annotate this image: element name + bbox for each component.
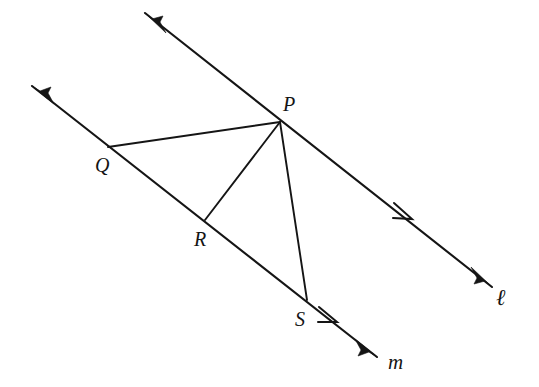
segment-ps [280, 122, 307, 300]
geometry-canvas [0, 0, 539, 387]
line-m-end-arrowhead [355, 339, 377, 357]
segment-pq [108, 122, 280, 147]
line-m-group [32, 86, 377, 357]
point-label-s: S [295, 309, 305, 329]
line-m [32, 86, 377, 357]
line-l-end-arrowhead [471, 267, 492, 287]
geometry-figure: P Q R S ℓ m [0, 0, 539, 387]
line-m-start-arrowhead [32, 86, 54, 104]
point-label-p: P [283, 94, 295, 114]
line-l-start-arrowhead [145, 13, 166, 33]
point-label-r: R [194, 229, 206, 249]
segments-group [108, 122, 307, 300]
line-label-l: ℓ [496, 286, 506, 309]
point-label-q: Q [95, 155, 109, 175]
line-m-direction-mark [318, 307, 337, 322]
line-label-m: m [388, 352, 403, 373]
segment-pr [205, 122, 280, 220]
